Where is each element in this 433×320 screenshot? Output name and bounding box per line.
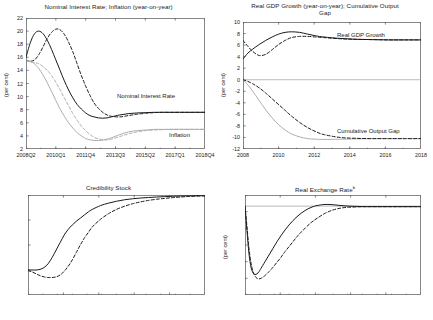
panel-credibility-stock: Credibility Stock 0.20.40.60.81.02008Q22… — [0, 166, 217, 320]
series-line — [245, 204, 421, 274]
y-tick-label: 4 — [2, 133, 23, 139]
series-line — [245, 206, 421, 279]
x-tick-label: 2013Q3 — [101, 152, 131, 158]
chart-svg — [28, 195, 205, 295]
y-tick-label: 2 — [219, 65, 240, 71]
x-tick-label: 2010 — [264, 152, 294, 158]
y-tick-label: 14 — [2, 67, 23, 73]
panel-title-text: Real Exchange Rate — [295, 186, 353, 193]
x-tick-label: 2015Q2 — [130, 152, 160, 158]
annotation-inflation: Inflation — [169, 132, 190, 138]
y-tick-label: 8 — [2, 107, 23, 113]
y-tick-label: -8 — [219, 123, 240, 129]
y-tick-label: 10 — [219, 19, 240, 25]
x-tick-label: 2012 — [299, 152, 329, 158]
series-line — [26, 61, 205, 140]
panel-nominal-interest-inflation: Nominal Interest Rate; Inflation (year-o… — [0, 0, 217, 166]
y-tick-label: 10 — [2, 94, 23, 100]
x-tick-label: 2010Q1 — [41, 152, 71, 158]
y-tick-label: 4 — [219, 54, 240, 60]
y-tick-label: 20 — [2, 28, 23, 34]
series-line — [26, 29, 205, 117]
annotation-nominal-interest-rate: Nominal Interest Rate — [117, 93, 175, 99]
plot-area — [28, 195, 205, 295]
y-tick-label: 0 — [219, 77, 240, 83]
plot-area — [245, 195, 421, 295]
x-tick-label: 2008 — [228, 152, 258, 158]
x-tick-label: 2011Q4 — [71, 152, 101, 158]
series-line — [243, 36, 421, 55]
chart-svg — [26, 18, 205, 149]
y-tick-label: 8 — [219, 31, 240, 37]
figure-panel-grid: Nominal Interest Rate; Inflation (year-o… — [0, 0, 433, 320]
annotation-real-gdp-growth: Real GDP Growth — [337, 32, 385, 38]
plot-area — [26, 18, 205, 149]
y-tick-label: -10 — [219, 134, 240, 140]
y-tick-label: 22 — [2, 15, 23, 21]
y-tick-label: -4 — [219, 100, 240, 106]
y-tick-label: 18 — [2, 41, 23, 47]
y-tick-label: -2 — [219, 88, 240, 94]
panel-title-line2: Gap — [217, 9, 433, 16]
plot-frame — [29, 196, 205, 295]
panel-title: Real Exchange Rateb — [217, 184, 433, 193]
x-tick-label: 2018 — [406, 152, 433, 158]
x-tick-label: 2018Q4 — [190, 152, 220, 158]
series-line — [28, 196, 205, 270]
panel-real-exchange-rate: Real Exchange Rateb (per cent) -16-13-10… — [217, 166, 433, 320]
y-tick-label: -6 — [219, 111, 240, 117]
panel-title: Nominal Interest Rate; Inflation (year-o… — [0, 3, 217, 10]
axis-label-y: (per cent) — [222, 225, 228, 269]
y-tick-label: 16 — [2, 54, 23, 60]
y-tick-label: 12 — [2, 81, 23, 87]
panel-title: Credibility Stock — [0, 184, 217, 191]
panel-real-gdp-output-gap: Real GDP Growth (year-on-year); Cumulati… — [217, 0, 433, 166]
chart-svg — [245, 195, 421, 295]
series-line — [26, 60, 205, 141]
series-line — [243, 32, 421, 59]
panel-title-footnote-marker: b — [353, 185, 355, 190]
x-tick-label: 2017Q1 — [160, 152, 190, 158]
y-tick-label: 6 — [219, 42, 240, 48]
series-line — [28, 196, 205, 278]
x-tick-label: 2014 — [335, 152, 365, 158]
annotation-cumulative-output-gap: Cumulative Output Gap — [337, 128, 400, 134]
x-tick-label: 2008Q2 — [11, 152, 41, 158]
y-tick-label: 6 — [2, 120, 23, 126]
series-line — [26, 31, 205, 118]
x-tick-label: 2016 — [370, 152, 400, 158]
